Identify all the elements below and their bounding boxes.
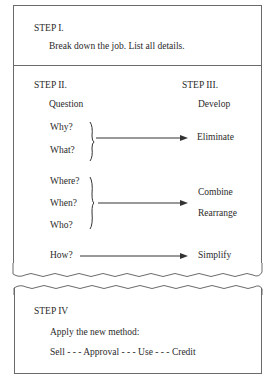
- result-rearrange: Rearrange: [198, 208, 237, 218]
- step4-title: STEP IV: [34, 306, 68, 316]
- question-how: How?: [50, 250, 73, 260]
- arrow-head-icon: [180, 200, 188, 206]
- step2-title: STEP II.: [34, 80, 67, 90]
- question-who: Who?: [50, 220, 73, 230]
- arrow-head-icon: [180, 253, 188, 259]
- step4-sequence: Sell - - - Approval - - - Use - - - Cred…: [50, 347, 196, 357]
- arrow-head-icon: [180, 135, 188, 141]
- brace-icon: [90, 122, 94, 161]
- question-when: When?: [50, 198, 77, 208]
- step2-subtitle: Question: [49, 99, 83, 109]
- question-where: Where?: [50, 176, 80, 186]
- result-eliminate: Eliminate: [197, 132, 234, 142]
- step1-text: Break down the job. List all details.: [49, 41, 185, 51]
- step1-title: STEP I.: [34, 23, 64, 33]
- step4-text: Apply the new method:: [50, 327, 139, 337]
- question-why: Why?: [50, 122, 73, 132]
- question-what: What?: [50, 145, 75, 155]
- step3-title: STEP III.: [182, 80, 218, 90]
- brace-icon: [90, 177, 94, 229]
- result-combine: Combine: [198, 187, 233, 197]
- result-simplify: Simplify: [198, 250, 231, 260]
- step3-subtitle: Develop: [198, 99, 230, 109]
